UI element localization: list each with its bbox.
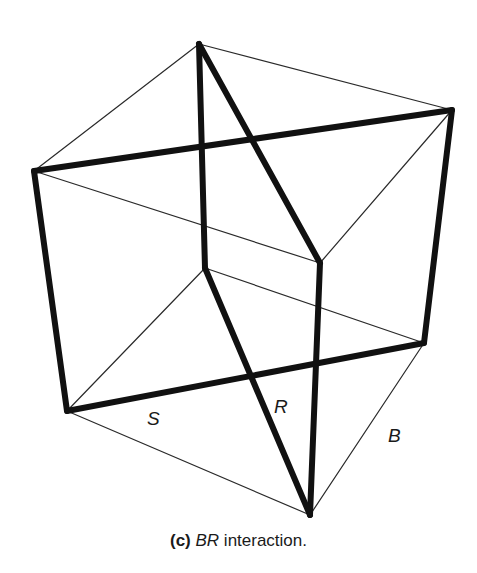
figure-caption: (c) BR interaction. xyxy=(0,531,477,551)
caption-text: interaction. xyxy=(219,531,307,550)
edge-right-bottom_right xyxy=(424,110,452,343)
caption-tag: (c) xyxy=(170,531,191,550)
edge-top-right xyxy=(199,44,452,110)
edge-front_top-bottom_tip xyxy=(310,263,320,515)
edge-bottom_right-bottom_tip xyxy=(310,343,424,515)
label-b: B xyxy=(388,426,401,445)
edge-inner-bottom_tip xyxy=(205,268,310,515)
label-s: S xyxy=(147,409,160,428)
cube-interaction-diagram: S R B (c) BR interaction. xyxy=(0,0,477,573)
edge-top-inner xyxy=(199,44,205,268)
cube-wireframe xyxy=(0,0,477,573)
edge-left-bottom_left xyxy=(34,171,67,411)
label-r: R xyxy=(274,397,288,416)
edge-bottom_left-bottom_right xyxy=(67,343,424,411)
caption-variable: BR xyxy=(196,531,220,550)
edge-right-front_top xyxy=(320,110,452,263)
